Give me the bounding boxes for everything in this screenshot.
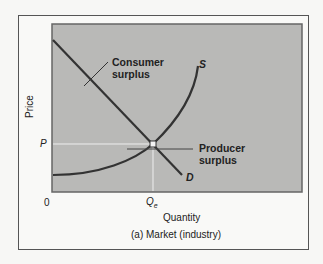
y-axis-label: Price [24, 95, 35, 118]
qty-tick-main: Q [146, 196, 154, 207]
consumer-surplus-line1: Consumer [112, 56, 164, 68]
x-axis-label: Quantity [163, 212, 200, 223]
consumer-surplus-line2: surplus [112, 68, 164, 80]
qty-tick-sub: e [154, 202, 158, 209]
demand-label: D [186, 171, 194, 183]
consumer-surplus-label: Consumer surplus [112, 56, 164, 80]
supply-label: S [199, 58, 206, 70]
caption: (a) Market (industry) [131, 229, 221, 240]
origin-label: 0 [44, 197, 50, 208]
qty-tick-label: Qe [146, 196, 158, 209]
producer-surplus-line2: surplus [199, 154, 245, 166]
producer-surplus-line1: Producer [199, 142, 245, 154]
producer-surplus-label: Producer surplus [199, 142, 245, 166]
equilibrium-point [150, 141, 156, 147]
market-chart [0, 0, 323, 264]
plot-area [52, 24, 302, 192]
price-tick-label: P [40, 138, 47, 149]
